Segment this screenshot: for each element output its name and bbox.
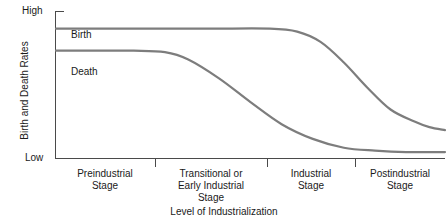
demographic-transition-chart: Birth and Death Rates High Low Birth Dea… [0,0,448,223]
y-axis-title: Birth and Death Rates [19,11,30,171]
stage-label-line3: Stage [155,192,267,204]
y-axis-low-label: Low [25,152,43,164]
stage-label-line1: Transitional or [155,168,267,180]
stage-label-line1: Industrial [267,168,355,180]
x-axis-title: Level of Industrialization [0,206,448,218]
stage-label-industrial: Industrial Stage [267,168,355,192]
stage-label-line2: Stage [355,180,445,192]
stage-label-line1: Postindustrial [355,168,445,180]
death-rate-curve [56,51,445,153]
stage-label-postindustrial: Postindustrial Stage [355,168,445,192]
birth-curve-label: Birth [71,29,92,41]
stage-label-line1: Preindustrial [55,168,155,180]
birth-rate-curve [56,28,445,130]
stage-label-preindustrial: Preindustrial Stage [55,168,155,192]
stage-label-transitional: Transitional or Early Industrial Stage [155,168,267,204]
death-curve-label: Death [71,66,98,78]
y-axis-high-label: High [22,5,43,17]
stage-label-line2: Early Industrial [155,180,267,192]
stage-label-line2: Stage [267,180,355,192]
stage-label-line2: Stage [55,180,155,192]
